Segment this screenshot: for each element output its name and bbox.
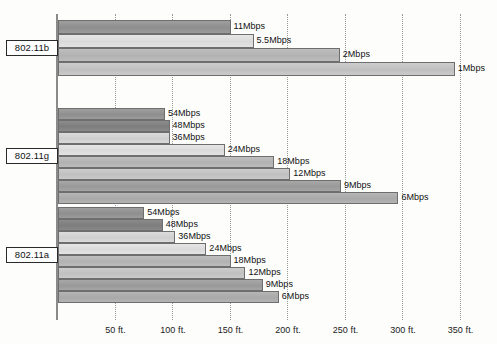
group-label-802.11g: 802.11g <box>6 148 58 164</box>
bar-802.11a-54Mbps <box>58 207 144 219</box>
bar-label-802.11g-36Mbps: 36Mbps <box>173 132 205 142</box>
bar-label-802.11g-48Mbps: 48Mbps <box>173 120 205 130</box>
bar-label-802.11g-12Mbps: 12Mbps <box>293 168 325 178</box>
bar-802.11b-5.5Mbps <box>58 34 254 48</box>
tick-label-250ft: 250 ft. <box>333 325 359 335</box>
bar-802.11g-9Mbps <box>58 180 341 192</box>
bar-802.11a-24Mbps <box>58 243 206 255</box>
tick-label-150ft: 150 ft. <box>218 325 244 335</box>
bar-802.11g-54Mbps <box>58 108 165 120</box>
bar-802.11a-36Mbps <box>58 231 175 243</box>
bar-802.11g-12Mbps <box>58 168 290 180</box>
bar-label-802.11b-1Mbps: 1Mbps <box>458 63 485 73</box>
bar-802.11b-1Mbps <box>58 62 455 76</box>
tick-label-300ft: 300 ft. <box>390 325 416 335</box>
gridline-350ft <box>460 14 462 320</box>
bar-label-802.11b-5.5Mbps: 5.5Mbps <box>257 35 292 45</box>
bar-label-802.11g-24Mbps: 24Mbps <box>228 144 260 154</box>
bar-802.11b-2Mbps <box>58 48 340 62</box>
bar-802.11g-48Mbps <box>58 120 170 132</box>
bar-label-802.11a-18Mbps: 18Mbps <box>234 255 266 265</box>
bar-label-802.11a-12Mbps: 12Mbps <box>248 267 280 277</box>
bar-802.11a-48Mbps <box>58 219 163 231</box>
bar-802.11g-6Mbps <box>58 192 398 204</box>
tick-label-350ft: 350 ft. <box>448 325 474 335</box>
bar-802.11a-9Mbps <box>58 279 263 291</box>
bar-label-802.11a-54Mbps: 54Mbps <box>147 207 179 217</box>
tick-label-50ft: 50 ft. <box>105 325 126 335</box>
bar-label-802.11g-54Mbps: 54Mbps <box>168 108 200 118</box>
group-label-802.11a: 802.11a <box>6 247 58 263</box>
bar-802.11g-24Mbps <box>58 144 225 156</box>
gridline-250ft <box>345 14 347 320</box>
bar-802.11a-18Mbps <box>58 255 231 267</box>
tick-label-200ft: 200 ft. <box>275 325 301 335</box>
bar-label-802.11g-9Mbps: 9Mbps <box>344 180 371 190</box>
bar-label-802.11b-11Mbps: 11Mbps <box>234 21 266 31</box>
tick-label-100ft: 100 ft. <box>160 325 186 335</box>
bar-802.11a-12Mbps <box>58 267 245 279</box>
bar-label-802.11a-48Mbps: 48Mbps <box>166 219 198 229</box>
bar-label-802.11a-36Mbps: 36Mbps <box>178 231 210 241</box>
bar-label-802.11b-2Mbps: 2Mbps <box>343 49 370 59</box>
bar-label-802.11g-6Mbps: 6Mbps <box>401 192 428 202</box>
bar-label-802.11a-6Mbps: 6Mbps <box>282 291 309 301</box>
wifi-range-bar-chart: 50 ft.100 ft.150 ft.200 ft.250 ft.300 ft… <box>0 0 497 344</box>
gridline-300ft <box>402 14 404 320</box>
group-label-802.11b: 802.11b <box>6 40 58 56</box>
bar-label-802.11a-24Mbps: 24Mbps <box>209 243 241 253</box>
bar-label-802.11a-9Mbps: 9Mbps <box>266 279 293 289</box>
bar-802.11a-6Mbps <box>58 291 279 303</box>
bar-label-802.11g-18Mbps: 18Mbps <box>277 156 309 166</box>
bar-802.11g-18Mbps <box>58 156 274 168</box>
bar-802.11b-11Mbps <box>58 20 231 34</box>
bar-802.11g-36Mbps <box>58 132 170 144</box>
